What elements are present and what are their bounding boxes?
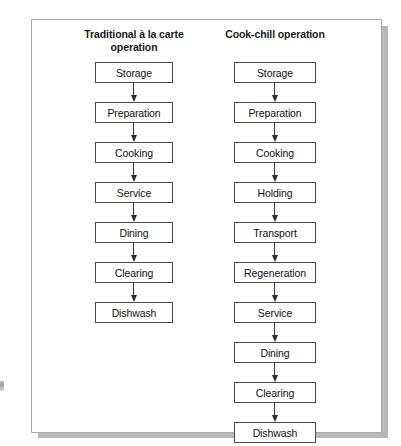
- flow-node-box: Cooking: [95, 142, 173, 163]
- flow-node-box: Preparation: [234, 102, 316, 123]
- flow-arrow-down-icon: [133, 83, 135, 102]
- flow-node-box: Transport: [234, 222, 316, 243]
- flow-arrow-down-icon: [274, 283, 276, 302]
- flow-node-box: Preparation: [95, 102, 173, 123]
- flow-arrow-down-icon: [274, 83, 276, 102]
- flow-node-box: Clearing: [234, 382, 316, 403]
- flow-node: Preparation: [69, 102, 199, 142]
- flow-arrow-down-icon: [274, 203, 276, 222]
- flow-steps-traditional: Storage Preparation Cooking: [69, 62, 199, 342]
- flow-node: Cooking: [210, 142, 340, 182]
- flow-arrow-down-icon: [133, 123, 135, 142]
- flow-arrow-down-icon: [274, 363, 276, 382]
- flow-node: Dishwash: [69, 302, 199, 342]
- flow-node-box: Dining: [234, 342, 316, 363]
- flow-node: Dining: [210, 342, 340, 382]
- flow-steps-cook-chill: Storage Preparation Cooking: [210, 62, 340, 446]
- flow-node: Clearing: [69, 262, 199, 302]
- flow-node-box: Regeneration: [234, 262, 316, 283]
- flow-node: Service: [69, 182, 199, 222]
- flow-node: Transport: [210, 222, 340, 262]
- page-edge-artifact: [0, 381, 4, 391]
- flow-arrow-down-icon: [274, 323, 276, 342]
- flow-node: Holding: [210, 182, 340, 222]
- flow-arrow-down-icon: [133, 163, 135, 182]
- flowchart-columns: Traditional à la carte operation Storage…: [32, 20, 381, 432]
- flow-node: Storage: [69, 62, 199, 102]
- flow-node-box: Storage: [234, 62, 316, 83]
- flow-node-box: Cooking: [234, 142, 316, 163]
- flow-node-box: Clearing: [95, 262, 173, 283]
- flow-node: Storage: [210, 62, 340, 102]
- column-title-cook-chill: Cook-chill operation: [210, 28, 340, 41]
- flow-node-box: Service: [234, 302, 316, 323]
- flow-arrow-down-icon: [133, 243, 135, 262]
- flow-arrow-down-icon: [274, 403, 276, 422]
- flow-node: Dining: [69, 222, 199, 262]
- flow-arrow-down-icon: [274, 243, 276, 262]
- flow-arrow-down-icon: [133, 283, 135, 302]
- flow-node-box: Storage: [95, 62, 173, 83]
- column-title-traditional: Traditional à la carte operation: [69, 28, 199, 54]
- flow-node: Regeneration: [210, 262, 340, 302]
- flow-arrow-down-icon: [133, 203, 135, 222]
- flow-node-box: Dishwash: [234, 422, 316, 443]
- flow-node: Preparation: [210, 102, 340, 142]
- flow-arrow-down-icon: [274, 123, 276, 142]
- flow-node-box: Dining: [95, 222, 173, 243]
- flow-node-box: Dishwash: [95, 302, 173, 323]
- flow-node-box: Service: [95, 182, 173, 203]
- flow-node-box: Holding: [234, 182, 316, 203]
- flow-node: Service: [210, 302, 340, 342]
- flowchart-figure: Traditional à la carte operation Storage…: [0, 0, 401, 446]
- flow-node: Clearing: [210, 382, 340, 422]
- flow-node: Cooking: [69, 142, 199, 182]
- figure-frame: Traditional à la carte operation Storage…: [31, 19, 382, 433]
- flow-arrow-down-icon: [274, 163, 276, 182]
- flow-node: Dishwash: [210, 422, 340, 446]
